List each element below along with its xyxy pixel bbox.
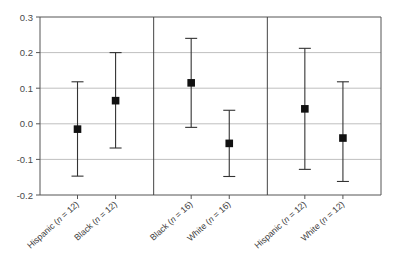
data-marker-square — [339, 134, 347, 142]
y-tick-label: -0.1 — [17, 154, 33, 165]
y-tick-label: 0.2 — [20, 47, 33, 58]
data-marker-square — [74, 125, 82, 133]
y-tick-label: 0.0 — [20, 118, 33, 129]
data-marker-square — [112, 97, 120, 105]
y-tick-label: 0.1 — [20, 83, 33, 94]
y-tick-label: 0.3 — [20, 12, 33, 23]
chart-canvas: 0.30.20.10.0-0.1-0.2 Hispanic (n = 12)Bl… — [0, 0, 395, 277]
data-marker-square — [225, 140, 233, 148]
error-bar-chart: 0.30.20.10.0-0.1-0.2 Hispanic (n = 12)Bl… — [0, 0, 395, 277]
data-marker-square — [187, 79, 195, 87]
data-marker-square — [301, 105, 309, 113]
y-tick-label: -0.2 — [17, 190, 33, 201]
